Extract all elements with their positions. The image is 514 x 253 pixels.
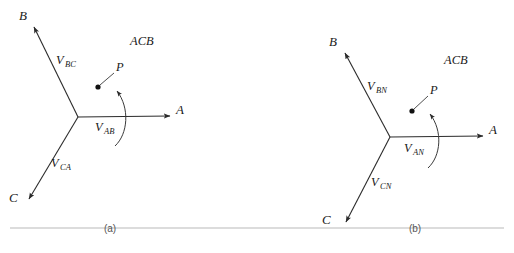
vbn-sub: BN [376,85,388,95]
panel-a-sequence-label: ACB [129,34,154,48]
panel-b: A B C V AN V BN [322,34,497,234]
vca-sub: CA [60,162,72,172]
panel-a-caption: (a) [104,223,116,234]
vbn-base: V [367,79,376,93]
panel-b-label-C: C [322,212,331,227]
panel-a: A B C V AB V BC [9,8,504,234]
figure-canvas: A B C V AB V BC [0,0,514,253]
panel-a-label-A: A [175,102,184,117]
panel-a-phasor-label-VAB: V AB [95,120,114,136]
panel-b-label-P: P [429,83,438,97]
vcn-base: V [371,175,380,189]
van-sub: AN [412,147,425,157]
panel-b-caption: (b) [409,223,421,234]
panel-a-rotation-arc [115,91,126,146]
panel-b-sequence-label: ACB [443,53,468,67]
vcn-sub: CN [380,181,393,191]
vca-base: V [51,156,60,170]
vab-base: V [95,120,104,134]
panel-b-phasor-label-VCN: V CN [371,175,393,191]
vbc-base: V [56,53,65,67]
panel-b-point-p-dot [409,108,414,113]
panel-b-phasor-label-VAN: V AN [404,141,425,157]
panel-b-rotation-point: P [409,83,438,114]
van-base: V [404,141,413,155]
panel-b-axis-A: A [390,122,497,137]
panel-a-point-p-dot [95,84,100,89]
panel-b-label-B: B [329,34,337,49]
panel-a-phasor-label-VBC: V BC [56,53,76,69]
panel-a-axis-A: A [78,102,184,117]
phasor-diagram-svg: A B C V AB V BC [0,0,514,253]
panel-b-rotation-arc [428,114,439,168]
vbc-sub: BC [65,59,76,69]
vab-sub: AB [103,126,114,136]
panel-b-label-A: A [488,122,497,137]
panel-a-label-C: C [9,190,18,205]
panel-a-axis-C: C [9,117,78,205]
panel-a-rotation-point: P [95,60,124,90]
panel-b-phasor-label-VBN: V BN [367,79,388,95]
panel-a-label-B: B [19,8,27,23]
panel-a-label-P: P [115,60,124,74]
panel-a-phasor-label-VCA: V CA [51,156,72,172]
